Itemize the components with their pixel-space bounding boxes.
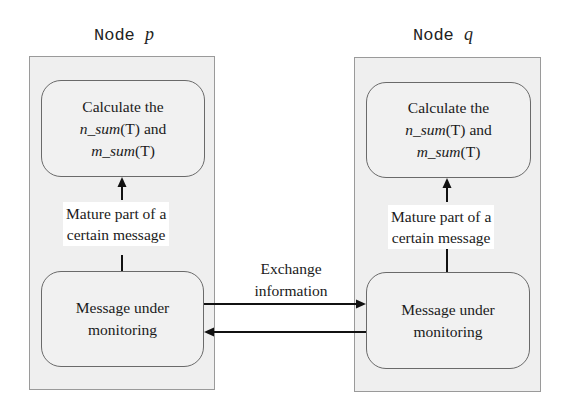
node-q-up-arrowhead-icon bbox=[443, 178, 452, 188]
q-to-p-arrowhead-icon bbox=[204, 328, 214, 337]
node-p-up-arrowhead-icon bbox=[118, 177, 127, 187]
p-to-q-arrowhead-icon bbox=[356, 300, 366, 309]
arrows-layer bbox=[0, 0, 567, 413]
